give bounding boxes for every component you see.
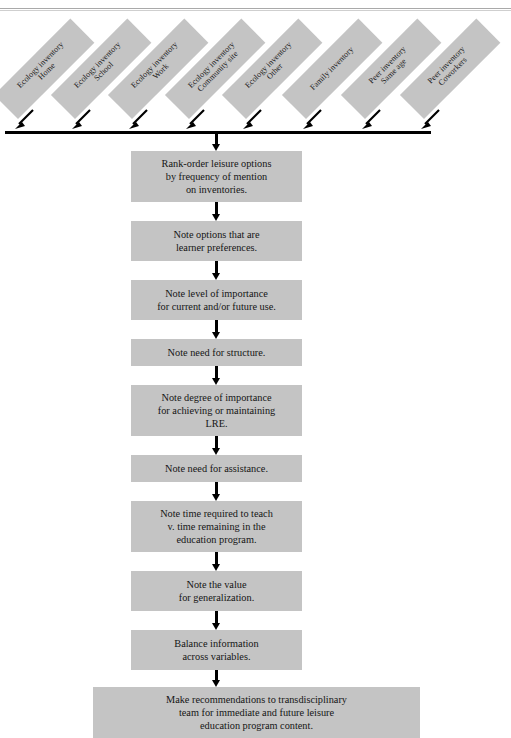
- step-line: for generalization.: [179, 591, 254, 604]
- source-label-line1: Ecology inventory: [16, 41, 66, 91]
- feed-arrow-4: [184, 108, 206, 130]
- step-box-make-recommendations: Make recommendations to transdisciplinar…: [93, 687, 420, 738]
- step-box-note-level-of-importance: Note level of importance for current and…: [131, 280, 302, 320]
- step-line: for achieving or maintaining: [158, 404, 276, 417]
- feed-arrow-6: [301, 108, 323, 130]
- connector-arrow-2: [212, 261, 221, 280]
- feed-arrow-7: [360, 108, 382, 130]
- inventory-sources-group: Ecology inventory Home Ecology inventory…: [0, 0, 511, 140]
- step-line: education program.: [176, 533, 256, 546]
- step-line: Note the value: [186, 578, 246, 591]
- step-line: Note degree of importance: [161, 391, 271, 404]
- step-line: Note need for assistance.: [165, 462, 268, 475]
- step-box-note-value-for-generalization: Note the value for generalization.: [131, 571, 302, 611]
- step-line: LRE.: [205, 417, 227, 430]
- feed-arrow-5: [241, 108, 263, 130]
- feed-arrow-8: [419, 108, 441, 130]
- step-line: Note level of importance: [165, 287, 268, 300]
- step-box-note-learner-preferences: Note options that are learner preference…: [131, 221, 302, 261]
- step-line: Note time required to teach: [160, 507, 273, 520]
- connector-arrow-0: [212, 134, 221, 151]
- connector-arrow-7: [212, 552, 221, 571]
- step-line: v. time remaining in the: [168, 520, 266, 533]
- connector-arrow-1: [212, 202, 221, 221]
- step-box-note-need-for-assistance: Note need for assistance.: [131, 455, 302, 482]
- step-line: Make recommendations to transdisciplinar…: [166, 693, 347, 706]
- step-line: team for immediate and future leisure: [179, 706, 334, 719]
- connector-arrow-9: [212, 670, 221, 687]
- step-line: education program content.: [200, 719, 313, 732]
- connector-arrow-8: [212, 611, 221, 630]
- step-line: learner preferences.: [176, 241, 257, 254]
- step-line: Rank-order leisure options: [162, 157, 272, 170]
- connector-arrow-3: [212, 320, 221, 339]
- source-label-line1: Family inventory: [309, 45, 356, 92]
- step-line: Note need for structure.: [168, 346, 266, 359]
- step-line: on inventories.: [186, 183, 247, 196]
- step-box-note-degree-of-importance-lre: Note degree of importance for achieving …: [131, 385, 302, 436]
- step-box-note-need-for-structure: Note need for structure.: [131, 339, 302, 366]
- step-line: Note options that are: [173, 228, 259, 241]
- step-line: Balance information: [174, 637, 258, 650]
- connector-arrow-5: [212, 436, 221, 455]
- step-box-note-time-required-to-teach: Note time required to teach v. time rema…: [131, 501, 302, 552]
- feed-arrow-2: [70, 108, 92, 130]
- feed-arrow-1: [13, 108, 35, 130]
- step-line: across variables.: [182, 650, 250, 663]
- feed-arrow-3: [127, 108, 149, 130]
- step-line: for current and/or future use.: [157, 300, 276, 313]
- step-box-balance-information: Balance information across variables.: [131, 630, 302, 670]
- step-box-rank-order-leisure-options: Rank-order leisure options by frequency …: [131, 151, 302, 202]
- connector-arrow-4: [212, 366, 221, 385]
- connector-arrow-6: [212, 482, 221, 501]
- step-line: by frequency of mention: [166, 170, 268, 183]
